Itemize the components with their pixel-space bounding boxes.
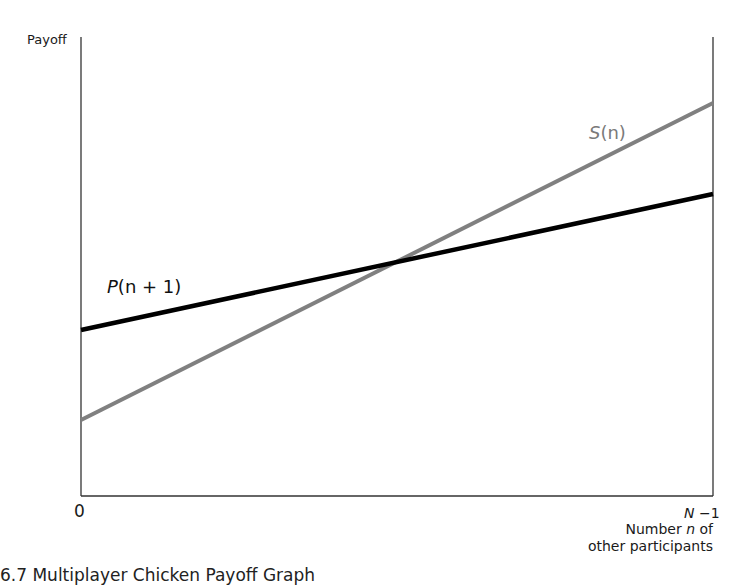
x-axis-label-line1: Number n of [588, 521, 713, 538]
p-n-plus-1-line [81, 194, 713, 330]
p-series-label: P(n + 1) [107, 276, 181, 297]
x-tick-var: N [684, 505, 694, 521]
x-tick-zero: 0 [74, 501, 85, 521]
x-tick-n-minus-1: N −1 [684, 505, 720, 521]
x-axis-label: Number n of other participants [588, 521, 713, 555]
y-axis-label: Payoff [27, 32, 67, 47]
x-tick-rest: −1 [694, 505, 719, 521]
figure-caption: 6.7 Multiplayer Chicken Payoff Graph [0, 565, 315, 585]
s-series-label: S(n) [589, 122, 626, 143]
x-axis-label-line2: other participants [588, 538, 713, 555]
